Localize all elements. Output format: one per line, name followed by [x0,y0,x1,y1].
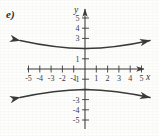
x-tick-label: -4 [36,74,43,83]
y-tick-label: 3 [76,34,80,43]
graph-figure: e) [0,0,159,136]
y-tick-label: 4 [76,24,80,33]
y-tick-label: -3 [73,96,80,105]
x-axis-tick-labels: -5 -4 -3 -2 -1 1 2 3 4 5 [25,74,143,83]
x-tick-label: -5 [25,74,32,83]
x-tick-label: 2 [106,74,110,83]
y-tick-label: -1 [73,75,80,84]
x-tick-label: 1 [94,74,98,83]
y-tick-label: 5 [76,14,80,23]
x-tick-label: -3 [48,74,55,83]
coordinate-plane: -5 -4 -3 -2 -1 1 2 3 4 5 5 4 [0,0,159,136]
y-axis-label: y [73,5,79,15]
x-tick-label: -2 [59,74,66,83]
x-tick-label: 4 [128,74,132,83]
x-axis-label: x [145,72,151,82]
y-tick-label: -5 [73,116,80,125]
x-tick-label: 3 [117,74,121,83]
x-tick-label: 5 [140,74,144,83]
y-tick-label: 1 [76,55,80,64]
y-tick-label: -4 [73,106,80,115]
